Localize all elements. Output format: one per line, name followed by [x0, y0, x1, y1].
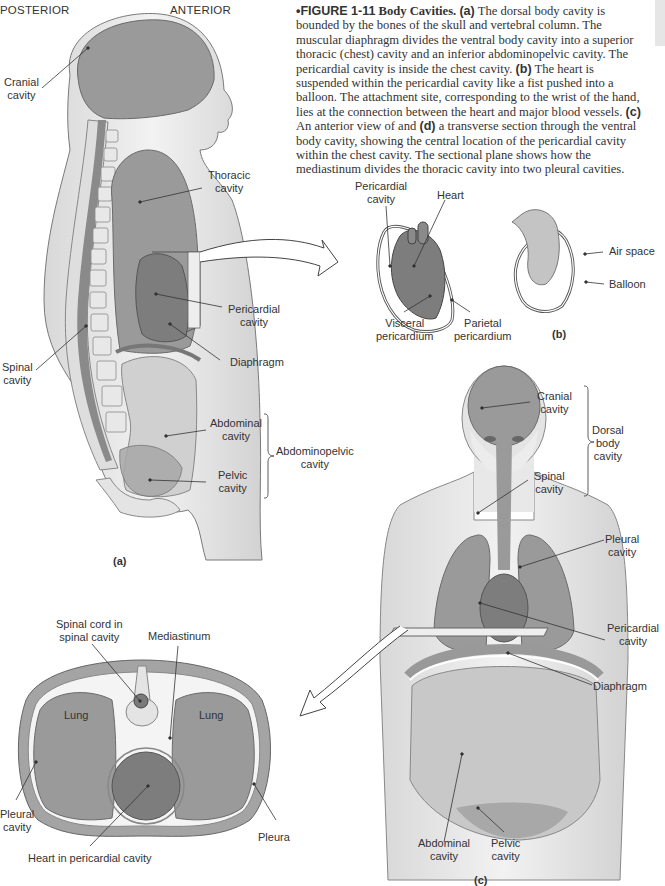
label-abdominal-cavity-a: Abdominal cavity	[210, 417, 262, 443]
label-lung-left: Lung	[64, 709, 88, 722]
label-thoracic-cavity: Thoracic cavity	[208, 169, 250, 195]
part-label-b: (b)	[552, 328, 566, 340]
label-balloon: Balloon	[609, 278, 646, 291]
label-cranial-cavity-a: Cranial cavity	[4, 76, 39, 102]
part-label-c: (c)	[474, 874, 487, 886]
label-dorsal-body-cavity: Dorsal body cavity	[592, 424, 624, 463]
label-diaphragm-c: Diaphragm	[593, 680, 647, 693]
label-spinal-cavity-c: Spinal cavity	[534, 470, 565, 496]
label-pericardial-cavity-c: Pericardial cavity	[607, 622, 659, 648]
panel-b-heart-balloon	[378, 210, 573, 332]
label-pleural-cavity-c: Pleural cavity	[605, 533, 639, 559]
label-pleural-cavity-d: Pleural cavity	[0, 808, 34, 834]
label-pelvic-cavity-a: Pelvic cavity	[218, 469, 247, 495]
panel-a-sagittal-figure	[44, 14, 338, 560]
label-visceral-pericardium: Visceral pericardium	[376, 317, 433, 343]
posterior-label: POSTERIOR	[0, 4, 70, 16]
label-spinal-cord: Spinal cord in spinal cavity	[56, 618, 123, 644]
panel-c-anterior-figure	[300, 366, 628, 880]
label-abdominopelvic-cavity: Abdominopelvic cavity	[276, 445, 354, 471]
panel-d-transverse-section	[18, 660, 270, 836]
label-pelvic-cavity-c: Pelvic cavity	[491, 837, 520, 863]
label-parietal-pericardium: Parietal pericardium	[454, 317, 511, 343]
label-spinal-cavity-a: Spinal cavity	[2, 361, 33, 387]
label-heart: Heart	[437, 189, 464, 202]
label-air-space: Air space	[609, 245, 655, 258]
label-pericardial-cavity-a: Pericardial cavity	[228, 303, 280, 329]
label-cranial-cavity-c: Cranial cavity	[537, 390, 572, 416]
label-abdominal-cavity-c: Abdominal cavity	[418, 837, 470, 863]
label-mediastinum: Mediastinum	[148, 630, 210, 643]
part-label-a: (a)	[113, 555, 126, 567]
label-heart-in-pericardial-cavity: Heart in pericardial cavity	[28, 852, 152, 865]
label-diaphragm-a: Diaphragm	[230, 356, 284, 369]
label-pleura: Pleura	[258, 831, 290, 844]
label-pericardial-cavity-b: Pericardial cavity	[355, 180, 407, 206]
label-lung-right: Lung	[199, 709, 223, 722]
anterior-label: ANTERIOR	[170, 4, 231, 16]
